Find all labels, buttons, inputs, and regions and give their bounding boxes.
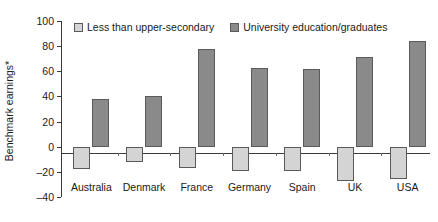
benchmark-earnings-bar-chart: Benchmark earnings* Less than upper-seco… [0, 0, 438, 222]
zero-minor-tick [276, 153, 277, 156]
y-axis-title: Benchmark earnings* [0, 0, 18, 222]
zero-minor-tick [170, 153, 171, 156]
y-tick-mark [57, 197, 61, 198]
y-tick-mark [57, 96, 61, 97]
zero-minor-tick [223, 153, 224, 156]
bar-uni-usa [409, 41, 426, 147]
bar-uni-france [198, 49, 215, 147]
zero-minor-tick [381, 153, 382, 156]
y-tick-label: 80 [42, 41, 54, 52]
y-tick-mark [57, 147, 61, 148]
y-axis-line [61, 21, 62, 197]
bar-uni-denmark [145, 96, 162, 146]
bar-uni-uk [356, 57, 373, 146]
y-tick-label: 0 [48, 141, 54, 152]
y-tick-label: 20 [42, 116, 54, 127]
y-tick-mark [57, 21, 61, 22]
bar-low-germany [232, 147, 249, 171]
y-tick-mark [57, 172, 61, 173]
zero-minor-tick [329, 153, 330, 156]
bar-low-uk [337, 147, 354, 181]
bar-uni-australia [92, 99, 109, 147]
y-tick-label: 60 [42, 66, 54, 77]
bar-low-denmark [126, 147, 143, 162]
bar-low-france [179, 147, 196, 168]
y-tick-mark [57, 122, 61, 123]
bar-uni-germany [251, 68, 268, 147]
bar-low-australia [73, 147, 90, 170]
y-tick-mark [57, 71, 61, 72]
y-tick-label: –40 [36, 192, 54, 203]
y-tick-label: 100 [36, 16, 54, 27]
bar-low-usa [390, 147, 407, 180]
y-tick-mark [57, 46, 61, 47]
bar-low-spain [284, 147, 301, 171]
bar-uni-spain [303, 69, 320, 147]
zero-minor-tick [118, 153, 119, 156]
plot-area: 100806040200–20–40 [61, 21, 430, 197]
x-label-usa: USA [368, 182, 438, 193]
y-tick-label: –20 [36, 167, 54, 178]
y-tick-label: 40 [42, 91, 54, 102]
